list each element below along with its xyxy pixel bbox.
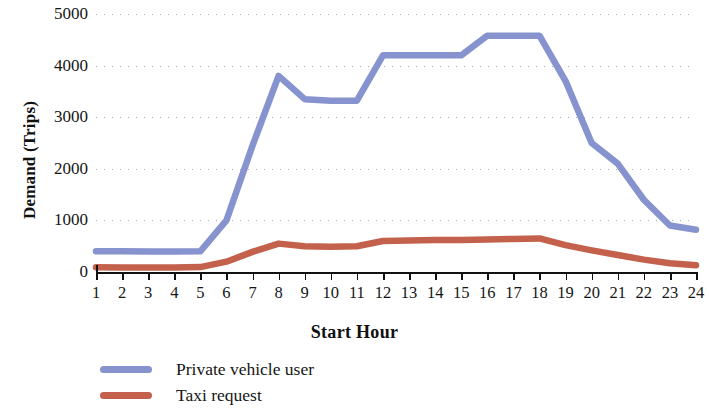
x-axis-tick xyxy=(331,272,333,280)
chart-figure: Demand (Trips) 010002000300040005000 123… xyxy=(0,0,709,413)
x-axis-line xyxy=(96,272,697,274)
x-axis-tick-label: 22 xyxy=(636,283,653,303)
x-axis-tick-label: 15 xyxy=(453,283,470,303)
x-axis-tick xyxy=(174,272,176,280)
legend-item[interactable]: Taxi request xyxy=(100,382,520,408)
x-axis-tick-label: 19 xyxy=(557,283,574,303)
x-axis-tick-label: 3 xyxy=(144,283,152,303)
x-axis-tick-label: 6 xyxy=(222,283,230,303)
x-axis-tick xyxy=(148,272,150,280)
y-axis-tick-label: 4000 xyxy=(32,57,88,74)
data-series-group xyxy=(96,14,696,272)
x-axis-tick-label: 1 xyxy=(92,283,100,303)
x-axis-tick xyxy=(435,272,437,280)
legend-color-swatch xyxy=(100,392,152,399)
x-axis-tick xyxy=(618,272,620,280)
legend-item-label: Taxi request xyxy=(176,385,262,406)
x-axis-tick-label: 16 xyxy=(479,283,496,303)
x-axis-tick xyxy=(696,272,698,280)
x-axis-tick xyxy=(670,272,672,280)
x-axis-tick-label: 18 xyxy=(531,283,548,303)
plot-area xyxy=(96,14,696,272)
x-axis-tick-label: 7 xyxy=(248,283,256,303)
x-axis-tick xyxy=(644,272,646,280)
x-axis-tick-label: 10 xyxy=(323,283,340,303)
x-axis-tick xyxy=(539,272,541,280)
x-axis-tick xyxy=(592,272,594,280)
x-axis-tick-label: 20 xyxy=(583,283,600,303)
x-axis-tick-label: 12 xyxy=(375,283,392,303)
chart-legend: Private vehicle userTaxi request xyxy=(100,356,520,408)
x-axis-tick xyxy=(383,272,385,280)
x-axis-tick-label: 14 xyxy=(427,283,444,303)
legend-item[interactable]: Private vehicle user xyxy=(100,356,520,382)
x-axis-tick xyxy=(253,272,255,280)
x-axis-tick-label: 24 xyxy=(688,283,705,303)
series-line xyxy=(96,36,696,252)
x-axis-tick xyxy=(461,272,463,280)
y-axis-tick-label: 2000 xyxy=(32,160,88,177)
x-axis-tick xyxy=(200,272,202,280)
x-axis-tick xyxy=(226,272,228,280)
x-axis-tick-label: 5 xyxy=(196,283,204,303)
x-axis-tick-label: 23 xyxy=(662,283,679,303)
x-axis-tick xyxy=(96,272,98,280)
x-axis-tick-label: 21 xyxy=(609,283,626,303)
x-axis-tick xyxy=(122,272,124,280)
y-axis-tick-label: 3000 xyxy=(32,108,88,125)
x-axis-tick xyxy=(305,272,307,280)
legend-color-swatch xyxy=(100,366,152,373)
x-axis-tick-label: 13 xyxy=(401,283,418,303)
x-axis-tick xyxy=(409,272,411,280)
x-axis-tick-label: 9 xyxy=(301,283,309,303)
x-axis-tick xyxy=(487,272,489,280)
x-axis-tick-label: 8 xyxy=(274,283,282,303)
x-axis-tick xyxy=(279,272,281,280)
x-axis-title: Start Hour xyxy=(0,322,709,343)
y-axis-tick-labels: 010002000300040005000 xyxy=(32,0,88,290)
x-axis-tick-label: 11 xyxy=(349,283,365,303)
x-axis-tick xyxy=(566,272,568,280)
y-axis-tick-label: 0 xyxy=(32,263,88,280)
y-axis-tick-label: 5000 xyxy=(32,5,88,22)
y-axis-tick-label: 1000 xyxy=(32,211,88,228)
x-axis-tick xyxy=(513,272,515,280)
legend-item-label: Private vehicle user xyxy=(176,359,314,380)
x-axis-tick xyxy=(357,272,359,280)
x-axis-tick-label: 17 xyxy=(505,283,522,303)
x-axis-tick-label: 4 xyxy=(170,283,178,303)
x-axis-tick-label: 2 xyxy=(118,283,126,303)
